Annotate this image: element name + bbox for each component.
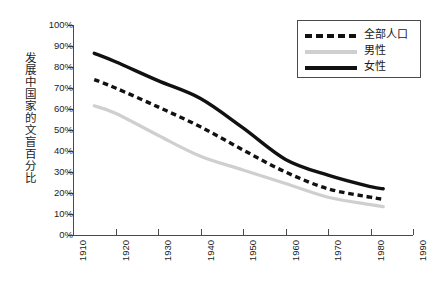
legend-item-male: 男性 xyxy=(305,42,413,58)
legend-item-female: 女性 xyxy=(305,58,413,74)
chart-container: 发展中国家的文盲百分比 0%10%20%30%40%50%60%70%80%90… xyxy=(0,0,431,282)
gray-line-swatch-icon xyxy=(305,50,357,54)
dashed-line-swatch-icon xyxy=(305,34,357,38)
legend-label-male: 男性 xyxy=(364,44,386,56)
legend-label-female: 女性 xyxy=(364,60,386,72)
legend-item-all: 全部人口 xyxy=(305,26,413,42)
legend-label-all: 全部人口 xyxy=(364,28,408,40)
black-line-swatch-icon xyxy=(305,66,357,70)
series-line-1 xyxy=(94,80,383,200)
chart-legend: 全部人口 男性 女性 xyxy=(297,20,421,78)
